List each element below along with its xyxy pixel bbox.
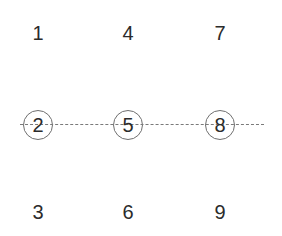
- number-8: 8: [205, 113, 235, 137]
- number-6: 6: [113, 200, 143, 224]
- number-9: 9: [205, 200, 235, 224]
- number-2: 2: [23, 113, 53, 137]
- number-1: 1: [23, 21, 53, 45]
- number-7: 7: [205, 21, 235, 45]
- number-4: 4: [113, 21, 143, 45]
- number-5: 5: [113, 113, 143, 137]
- number-3: 3: [23, 200, 53, 224]
